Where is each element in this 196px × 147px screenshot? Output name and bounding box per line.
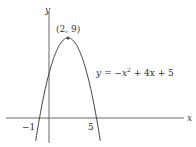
vertex-point: [66, 36, 69, 39]
equation-rest: + 4x + 5: [131, 68, 174, 78]
x-axis-label: x: [187, 113, 192, 123]
parabola-chart: y x (2, 9) −1 5 y = −x2 + 4x + 5: [0, 0, 196, 147]
equation-label: y = −x2 + 4x + 5: [95, 66, 174, 78]
vertex-label: (2, 9): [56, 24, 80, 34]
tick-label-neg1: −1: [22, 122, 35, 132]
tick-label-5: 5: [88, 122, 94, 132]
y-axis-label: y: [44, 5, 51, 15]
equation-main: y = −x: [95, 68, 127, 78]
